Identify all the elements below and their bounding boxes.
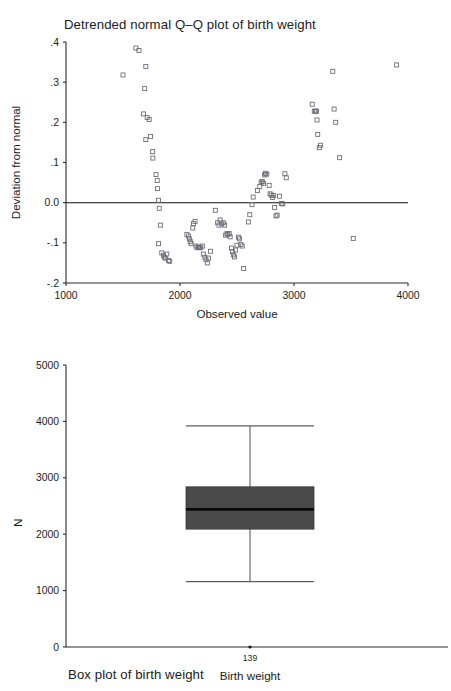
box-y-tick-label: 3000 [36,472,59,483]
qq-data-point [144,65,148,69]
qq-data-point [143,87,147,91]
box-y-tick-label: 1000 [36,585,59,596]
qq-data-point [155,179,159,183]
qq-data-point [235,243,239,247]
box-y-tick-label: 5000 [36,360,59,371]
box-plot-figure: Box plot of birth weight 010002000300040… [0,330,451,691]
qq-data-point [151,150,155,154]
qq-plot-figure: Detrended normal Q–Q plot of birth weigh… [0,0,451,330]
qq-x-tick-label: 1000 [54,290,77,301]
qq-data-point [248,213,252,217]
qq-data-point [157,198,161,202]
qq-data-point [316,132,320,136]
qq-data-point [256,189,260,193]
qq-y-tick-label: .3 [50,77,59,88]
qq-data-point [158,223,162,227]
qq-y-tick-label: -.2 [47,278,59,289]
qq-y-tick-label: .2 [50,117,59,128]
box-plot-canvas: 010002000300040005000139NBirth weight [0,330,451,691]
qq-data-point [310,102,314,106]
qq-x-axis-label: Observed value [196,307,277,320]
qq-data-point [250,203,254,207]
qq-y-axis-label: Deviation from normal [9,106,22,219]
qq-data-point [154,173,158,177]
box-x-axis-label: Birth weight [220,669,281,682]
box-category-label: 139 [243,653,258,663]
qq-x-tick-label: 4000 [396,290,419,301]
qq-data-point [144,138,148,142]
qq-x-tick-label: 2000 [168,290,191,301]
qq-data-point [277,194,281,198]
box-y-tick-label: 4000 [36,416,59,427]
qq-data-point [395,63,399,67]
qq-data-point [334,120,338,124]
qq-data-point [267,183,271,187]
qq-data-point [242,267,246,271]
qq-data-point [351,236,355,240]
qq-data-point [284,176,288,180]
qq-data-point [273,205,277,209]
qq-data-point [157,242,161,246]
qq-plot-canvas: .4.3.2.10.0-.1-.21000200030004000Deviati… [0,0,451,330]
qq-y-tick-label: -.1 [47,237,59,248]
qq-data-point [209,249,213,253]
qq-data-point [332,107,336,111]
qq-y-tick-label: 0.0 [45,197,60,208]
qq-data-point [149,134,153,138]
qq-data-point [283,172,287,176]
box-y-tick-label: 2000 [36,529,59,540]
box-category-tick-dot [248,645,251,648]
qq-data-point [251,195,255,199]
qq-data-point [121,73,125,77]
qq-x-tick-label: 3000 [282,290,305,301]
qq-data-point [191,226,195,230]
box-iqr-rect [186,487,314,529]
qq-data-point [246,220,250,224]
qq-data-point [157,206,161,210]
qq-data-point [155,187,159,191]
qq-y-tick-label: .4 [50,37,59,48]
box-y-axis-label: N [11,519,24,527]
qq-data-point [151,156,155,160]
qq-data-point [315,118,319,122]
box-y-tick-label: 0 [53,642,59,653]
qq-data-point [338,156,342,160]
qq-data-point [331,69,335,73]
qq-data-point [213,208,217,212]
qq-y-tick-label: .1 [50,157,59,168]
